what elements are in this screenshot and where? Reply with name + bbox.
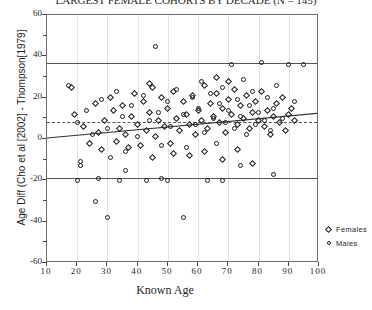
x-tick-mark-60 [197,262,198,266]
regression-trend-line [47,15,318,262]
data-point-males [271,106,276,111]
data-point-males [196,106,201,111]
data-point-males [66,83,71,88]
data-point-males [117,178,122,183]
data-point-males [226,108,231,113]
y-axis-tick-labels: 6040200-20-40-60 [14,0,42,310]
y-tick-label-0: 0 [18,132,42,142]
y-tick-mark--20 [42,179,46,180]
data-point-males [153,44,158,49]
data-point-males [75,178,80,183]
x-tick-mark-40 [137,262,138,266]
y-tick-mark-minor--30 [43,200,46,201]
x-tick-label-30: 30 [91,266,121,276]
data-point-males [156,110,161,115]
diamond-open-icon [324,225,333,234]
data-point-males [123,149,128,154]
plot-area [46,14,318,262]
y-tick-mark-minor--50 [43,241,46,242]
y-tick-mark-minor-30 [43,76,46,77]
data-point-males [93,199,98,204]
data-point-males [211,116,216,121]
data-point-males [105,215,110,220]
x-tick-label-90: 90 [273,266,303,276]
x-tick-mark-70 [227,262,228,266]
y-tick-label-60: 60 [18,8,42,18]
y-tick-label--60: -60 [18,256,42,266]
x-tick-label-40: 40 [122,266,152,276]
circle-open-icon [324,239,333,248]
data-point-males [220,85,225,90]
chart-title: LARGEST FEMALE COHORTS BY DECADE (N = 14… [0,0,372,6]
legend-item-females[interactable]: Females [324,222,372,236]
data-point-males [250,89,255,94]
data-point-males [123,168,128,173]
y-tick-label--40: -40 [18,215,42,225]
legend-item-males[interactable]: Males [324,236,372,250]
y-tick-label--20: -20 [18,173,42,183]
y-tick-mark-60 [42,14,46,15]
y-tick-mark-0 [42,138,46,139]
data-point-males [84,108,89,113]
data-point-males [223,120,228,125]
y-tick-mark-minor-50 [43,35,46,36]
legend: Females Males [324,222,372,250]
x-tick-mark-100 [318,262,319,266]
data-point-males [199,79,204,84]
data-point-males [205,178,210,183]
x-tick-mark-10 [46,262,47,266]
x-tick-label-10: 10 [31,266,61,276]
y-tick-label-20: 20 [18,91,42,101]
data-point-males [181,112,186,117]
data-point-males [75,120,80,125]
x-tick-label-80: 80 [243,266,273,276]
data-point-males [256,110,261,115]
legend-label-males: Males [336,239,358,248]
data-point-males [214,141,219,146]
y-tick-mark--60 [42,262,46,263]
x-tick-mark-50 [167,262,168,266]
x-axis-title: Known Age [0,283,330,298]
data-point-males [96,176,101,181]
y-tick-mark-20 [42,97,46,98]
data-point-males [271,172,276,177]
x-tick-mark-80 [258,262,259,266]
y-tick-mark-minor-10 [43,117,46,118]
data-point-males [184,145,189,150]
data-point-males [114,89,119,94]
y-tick-mark-minor--10 [43,159,46,160]
data-point-males [274,83,279,88]
x-tick-label-100: 100 [303,266,333,276]
data-point-males [229,62,234,67]
y-tick-label-40: 40 [18,49,42,59]
data-point-males [241,77,246,82]
x-tick-mark-90 [288,262,289,266]
y-tick-mark--40 [42,221,46,222]
x-tick-label-70: 70 [212,266,242,276]
data-point-males [181,215,186,220]
data-point-males [220,178,225,183]
data-point-males [262,118,267,123]
x-tick-label-20: 20 [61,266,91,276]
legend-label-females: Females [336,225,367,234]
data-point-males [238,114,243,119]
data-point-males [120,114,125,119]
x-tick-label-50: 50 [152,266,182,276]
data-point-males [193,122,198,127]
y-tick-mark-40 [42,55,46,56]
x-tick-label-60: 60 [182,266,212,276]
x-tick-mark-30 [106,262,107,266]
data-point-males [202,130,207,135]
data-point-males [190,95,195,100]
data-point-males [208,91,213,96]
x-tick-mark-20 [76,262,77,266]
